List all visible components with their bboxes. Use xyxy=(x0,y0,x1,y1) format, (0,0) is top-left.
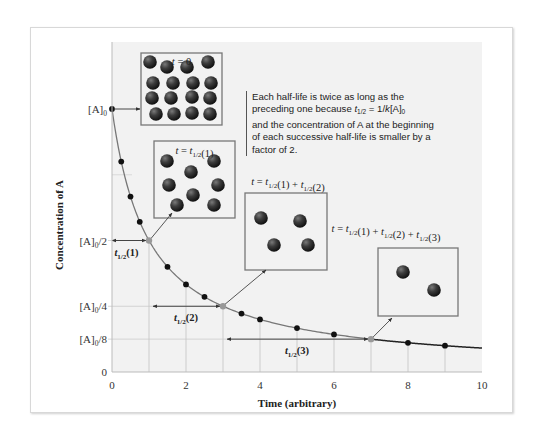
x-tick-label: 10 xyxy=(477,379,489,391)
x-axis-label: Time (arbitrary) xyxy=(258,397,337,410)
annotation-line: Each half-life is twice as long as the xyxy=(252,91,452,103)
particle xyxy=(149,107,163,121)
particle xyxy=(146,76,160,90)
particle xyxy=(293,214,307,228)
particle xyxy=(186,76,200,90)
y-tick-label: [A]0 xyxy=(88,103,107,118)
data-point xyxy=(331,331,337,337)
data-point xyxy=(202,294,208,300)
half-life-point xyxy=(146,237,152,243)
data-point xyxy=(165,264,171,270)
particle xyxy=(164,91,178,105)
annotation-line: and the concentration of A at the beginn… xyxy=(252,119,452,131)
particle xyxy=(254,211,268,225)
particle xyxy=(203,91,217,105)
annotation-line: preceding one because t1/2 = 1/k[A]0 xyxy=(252,103,452,118)
particle xyxy=(170,198,184,212)
y-tick-label: [A]0/8 xyxy=(79,333,107,348)
x-tick-label: 0 xyxy=(109,379,115,391)
x-tick-label: 6 xyxy=(331,379,337,391)
particle xyxy=(184,165,198,179)
y-tick-label: 0 xyxy=(102,366,108,378)
inset-caption: t = 0 xyxy=(172,56,191,67)
chart: t = 0t = t1/2(1)t = t1/2(1) + t1/2(2)t =… xyxy=(0,0,537,437)
x-tick-label: 2 xyxy=(183,379,189,391)
y-tick-label: [A]0/4 xyxy=(79,300,107,315)
y-tick-label: [A]0/2 xyxy=(79,235,107,250)
particle xyxy=(167,107,181,121)
inset-box xyxy=(378,248,458,316)
particle xyxy=(166,76,180,90)
inset-box xyxy=(245,193,327,270)
data-point xyxy=(118,159,124,165)
annotation-text: Each half-life is twice as long as the p… xyxy=(246,91,452,156)
particle xyxy=(160,154,174,168)
particle xyxy=(204,76,218,90)
particle xyxy=(201,55,215,69)
particle xyxy=(203,107,217,121)
half-life-point xyxy=(220,303,226,309)
particle xyxy=(267,238,281,252)
data-point xyxy=(405,340,411,346)
particle xyxy=(162,178,176,192)
particle xyxy=(143,55,157,69)
data-point xyxy=(294,325,300,331)
particle xyxy=(427,283,441,297)
x-tick-label: 8 xyxy=(405,379,411,391)
data-point xyxy=(128,194,134,200)
particle xyxy=(145,91,159,105)
y-axis-label: Concentration of A xyxy=(53,180,65,270)
particle xyxy=(396,265,410,279)
particle-inset: t = 0 xyxy=(141,53,222,125)
particle xyxy=(301,238,315,252)
x-tick-label: 4 xyxy=(257,379,263,391)
particle xyxy=(207,198,221,212)
annotation-line: of each successive half-life is smaller … xyxy=(252,131,452,143)
data-point xyxy=(137,219,143,225)
data-point xyxy=(257,317,263,323)
particle xyxy=(185,90,199,104)
data-point xyxy=(442,343,448,349)
particle xyxy=(186,188,200,202)
particle xyxy=(211,178,225,192)
particle xyxy=(185,106,199,120)
half-life-point xyxy=(368,336,374,342)
data-point xyxy=(183,282,189,288)
data-point xyxy=(239,311,245,317)
annotation-line: factor of 2. xyxy=(252,144,452,156)
